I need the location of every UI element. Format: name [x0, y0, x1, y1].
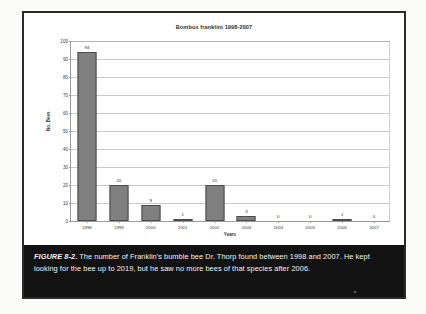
x-tick-label: 1998 — [82, 225, 92, 230]
x-tick-mark — [246, 221, 247, 223]
y-axis-label: No. Bees — [46, 111, 51, 131]
bar-value-label: 0 — [277, 214, 279, 219]
figure-container: Bombus franklini 1998-2007 No. Bees 0102… — [22, 11, 406, 299]
bar-value-label: 20 — [212, 178, 217, 183]
x-tick-mark — [119, 221, 120, 223]
x-tick-mark — [310, 221, 311, 223]
bar-group: 201999 — [103, 41, 135, 221]
bar-value-label: 0 — [373, 214, 375, 219]
bar — [205, 185, 224, 221]
bar-value-label: 20 — [116, 178, 121, 183]
y-tick-label: 80 — [63, 75, 68, 80]
plot-area: 0102030405060708090100 94199820199992000… — [70, 41, 390, 222]
x-tick-mark — [215, 221, 216, 223]
x-tick-label: 2007 — [369, 225, 379, 230]
bar-group: 12001 — [167, 41, 199, 221]
y-tick-label: 40 — [63, 147, 68, 152]
y-tick-label: 50 — [63, 129, 68, 134]
bar-group: 12006 — [326, 41, 358, 221]
y-tick-label: 30 — [63, 165, 68, 170]
bar-group: 02005 — [294, 41, 326, 221]
bar — [77, 52, 96, 221]
y-tick-label: 90 — [63, 57, 68, 62]
bar-value-label: 1 — [181, 212, 183, 217]
y-tick-label: 20 — [63, 183, 68, 188]
scanned-page: Bombus franklini 1998-2007 No. Bees 0102… — [0, 0, 426, 314]
y-tick-label: 70 — [63, 93, 68, 98]
x-tick-label: 2005 — [305, 225, 315, 230]
x-tick-label: 1999 — [114, 225, 124, 230]
bar-value-label: 94 — [84, 45, 89, 50]
figure-caption-band: FIGURE 8-2. The number of Franklin's bum… — [24, 245, 404, 297]
y-tick-label: 10 — [63, 201, 68, 206]
x-tick-mark — [151, 221, 152, 223]
chart-title: Bombus franklini 1998-2007 — [24, 24, 404, 30]
bar-value-label: 3 — [245, 209, 247, 214]
bar-group: 32003 — [231, 41, 263, 221]
bar — [141, 205, 160, 221]
bar-group: 02004 — [262, 41, 294, 221]
bar-value-label: 1 — [341, 212, 343, 217]
x-tick-label: 2000 — [146, 225, 156, 230]
x-tick-label: 2006 — [337, 225, 347, 230]
x-tick-mark — [278, 221, 279, 223]
x-axis-label: Years — [70, 232, 390, 237]
y-tick-label: 0 — [65, 219, 68, 224]
figure-caption-label: FIGURE 8-2. — [34, 252, 77, 261]
bar-group: 202002 — [199, 41, 231, 221]
x-tick-label: 2004 — [273, 225, 283, 230]
page-number: o — [354, 289, 356, 294]
y-tick-label: 100 — [60, 39, 68, 44]
x-tick-mark — [342, 221, 343, 223]
x-tick-mark — [87, 221, 88, 223]
y-tick-label: 60 — [63, 111, 68, 116]
bar-group: 941998 — [71, 41, 103, 221]
bar-value-label: 9 — [150, 198, 152, 203]
figure-caption: FIGURE 8-2. The number of Franklin's bum… — [34, 251, 394, 274]
x-tick-label: 2003 — [242, 225, 252, 230]
x-tick-label: 2001 — [178, 225, 188, 230]
bar — [109, 185, 128, 221]
y-tick-mark — [69, 221, 71, 222]
figure-caption-body: The number of Franklin's bumble bee Dr. … — [34, 252, 370, 273]
x-tick-mark — [374, 221, 375, 223]
x-tick-mark — [183, 221, 184, 223]
bar-group: 92000 — [135, 41, 167, 221]
x-tick-label: 2002 — [210, 225, 220, 230]
chart-panel: Bombus franklini 1998-2007 No. Bees 0102… — [24, 13, 404, 245]
bar-value-label: 0 — [309, 214, 311, 219]
bar-group: 02007 — [358, 41, 390, 221]
